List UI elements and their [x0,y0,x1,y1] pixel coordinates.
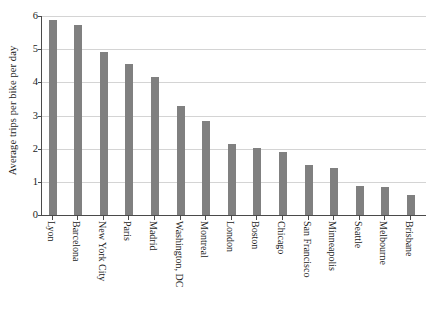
x-axis-tick-marks [41,216,425,220]
bar [330,168,338,215]
y-axis-tick-mark [38,16,42,17]
x-axis-tick-label: Barcelona [71,221,81,262]
x-axis-tick-label: London [225,221,235,252]
x-axis-tick-label: New York City [97,221,107,281]
x-axis-tick-label: Paris [122,221,132,241]
bar [125,64,133,215]
x-axis-tick-mark [103,216,104,220]
x-axis-tick-label: Washington, DC [174,221,184,287]
x-axis-tick-mark [154,216,155,220]
x-axis-tick-mark [359,216,360,220]
bars-layer [42,16,426,215]
y-axis-tick-label: 4 [22,77,38,88]
bar [177,106,185,215]
x-axis-tick-mark [128,216,129,220]
y-axis-tick-label: 1 [22,177,38,188]
y-axis-tick-label: 6 [22,11,38,22]
x-axis-tick-label: Minneapolis [327,221,337,271]
y-axis-tick-mark [38,49,42,50]
plot-area [41,16,426,216]
x-axis-tick-label: San Francisco [302,221,312,277]
bar [202,121,210,215]
x-axis-tick-labels: LyonBarcelonaNew York CityParisMadridWas… [41,221,425,309]
y-axis-title: Average trips per bike per day [3,3,21,218]
x-axis-tick-label: Lyon [46,221,56,242]
y-axis-tick-mark [38,149,42,150]
y-axis-tick-mark [38,182,42,183]
x-axis-tick-mark [384,216,385,220]
x-axis-tick-mark [231,216,232,220]
x-axis-tick-mark [333,216,334,220]
bar-chart: Average trips per bike per day 0123456 L… [0,0,438,309]
bar [305,165,313,215]
x-axis-tick-mark [205,216,206,220]
y-axis-tick-mark [38,82,42,83]
bar [253,148,261,215]
y-axis-tick-label: 3 [22,110,38,121]
x-axis-tick-label: Madrid [148,221,158,250]
x-axis-tick-label: Montreal [199,221,209,258]
bar [151,77,159,215]
x-axis-tick-mark [77,216,78,220]
x-axis-tick-label: Melbourne [378,221,388,265]
x-axis-tick-mark [410,216,411,220]
bar [100,52,108,215]
bar [49,20,57,215]
y-axis-tick-label: 2 [22,143,38,154]
bar [381,187,389,215]
x-axis-tick-label: Seattle [353,221,363,248]
bar [74,25,82,215]
x-axis-tick-label: Chicago [276,221,286,254]
x-axis-tick-mark [52,216,53,220]
bar [279,152,287,215]
y-axis-tick-label: 0 [22,210,38,221]
bar [356,186,364,215]
x-axis-tick-mark [282,216,283,220]
y-axis-tick-mark [38,116,42,117]
x-axis-tick-label: Brisbane [404,221,414,257]
y-axis-tick-label: 5 [22,44,38,55]
x-axis-tick-mark [308,216,309,220]
bar [228,144,236,215]
bar [407,195,415,215]
x-axis-tick-label: Boston [250,221,260,249]
x-axis-tick-mark [256,216,257,220]
y-axis-tick-labels: 0123456 [22,16,38,215]
x-axis-tick-mark [180,216,181,220]
